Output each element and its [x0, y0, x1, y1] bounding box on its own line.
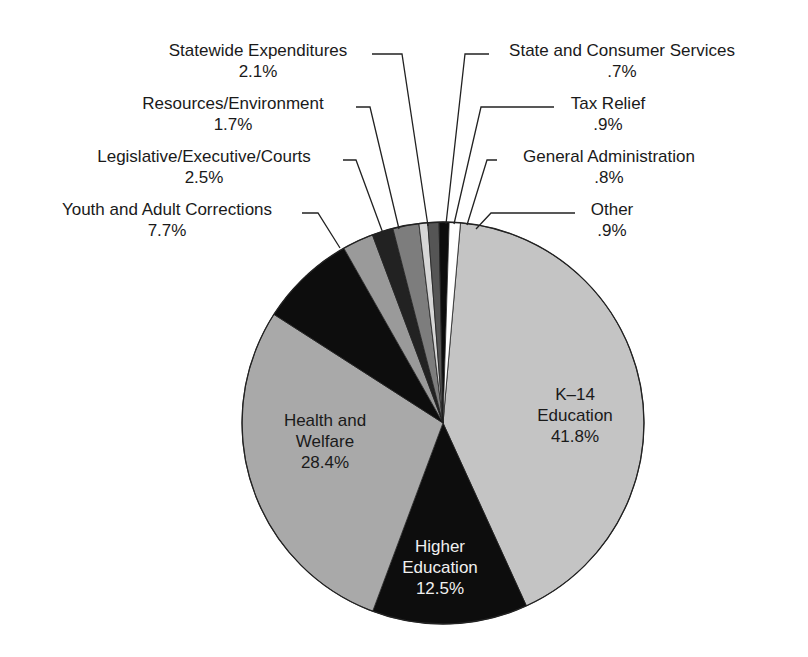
label-higher-name1: Higher: [380, 536, 500, 557]
label-genadmin: General Administration .8%: [500, 146, 718, 188]
leader-youth: [302, 213, 340, 248]
label-health-name1: Health and: [265, 410, 385, 431]
leader-legis: [343, 160, 384, 236]
leader-other: [476, 213, 575, 229]
label-youth-name: Youth and Adult Corrections: [36, 199, 298, 220]
label-statewide-pct: 2.1%: [148, 61, 368, 82]
label-statewide-name: Statewide Expenditures: [148, 40, 368, 61]
label-health-pct: 28.4%: [265, 452, 385, 473]
label-tax: Tax Relief .9%: [558, 93, 658, 135]
label-other: Other .9%: [577, 199, 647, 241]
label-legis-name: Legislative/Executive/Courts: [72, 146, 336, 167]
leader-genadmin: [467, 160, 497, 225]
label-statewide: Statewide Expenditures 2.1%: [148, 40, 368, 82]
label-legis: Legislative/Executive/Courts 2.5%: [72, 146, 336, 188]
label-higher: Higher Education 12.5%: [380, 536, 500, 599]
label-genadmin-pct: .8%: [500, 167, 718, 188]
label-health: Health and Welfare 28.4%: [265, 410, 385, 473]
label-k14-name2: Education: [510, 405, 640, 426]
label-k14-pct: 41.8%: [510, 426, 640, 447]
label-stateconsumer: State and Consumer Services .7%: [494, 40, 750, 82]
leader-statewide: [372, 54, 428, 226]
label-stateconsumer-pct: .7%: [494, 61, 750, 82]
label-higher-name2: Education: [380, 557, 500, 578]
label-legis-pct: 2.5%: [72, 167, 336, 188]
label-health-name2: Welfare: [265, 431, 385, 452]
label-youth: Youth and Adult Corrections 7.7%: [36, 199, 298, 241]
label-resources-name: Resources/Environment: [115, 93, 351, 114]
label-resources: Resources/Environment 1.7%: [115, 93, 351, 135]
label-youth-pct: 7.7%: [36, 220, 298, 241]
label-other-pct: .9%: [577, 220, 647, 241]
label-tax-pct: .9%: [558, 114, 658, 135]
label-resources-pct: 1.7%: [115, 114, 351, 135]
label-other-name: Other: [577, 199, 647, 220]
leader-stateconsumer: [446, 54, 489, 224]
leader-resources: [356, 107, 399, 229]
label-genadmin-name: General Administration: [500, 146, 718, 167]
label-k14-name1: K–14: [510, 384, 640, 405]
label-stateconsumer-name: State and Consumer Services: [494, 40, 750, 61]
label-higher-pct: 12.5%: [380, 578, 500, 599]
label-tax-name: Tax Relief: [558, 93, 658, 114]
label-k14: K–14 Education 41.8%: [510, 384, 640, 447]
